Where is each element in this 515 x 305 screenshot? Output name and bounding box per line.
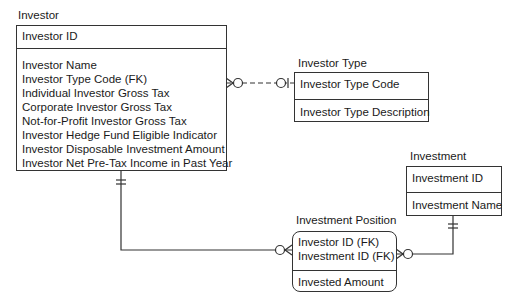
entity-investment-position[interactable]: Investor ID (FK) Investment ID (FK) Inve… <box>292 231 397 292</box>
attribute: Investor Type Description <box>300 105 423 119</box>
attribute: Individual Investor Gross Tax <box>22 86 221 100</box>
attribute: Investor Net Pre-Tax Income in Past Year <box>22 156 221 170</box>
attribute-section: Investment Name <box>407 192 501 215</box>
entity-title-investor-type: Investor Type <box>298 57 367 70</box>
attribute: Investment Name <box>412 198 496 212</box>
attribute: Investor Type Code <box>300 77 423 91</box>
key-section: Investor ID (FK) Investment ID (FK) <box>293 232 396 270</box>
entity-investor[interactable]: Investor ID Investor Name Investor Type … <box>16 25 227 171</box>
entity-investment[interactable]: Investment ID Investment Name <box>406 166 502 216</box>
attribute: Investment ID <box>412 171 496 185</box>
entity-title-investment-position: Investment Position <box>296 214 396 227</box>
attribute: Invested Amount <box>298 275 391 289</box>
entity-investor-type[interactable]: Investor Type Code Investor Type Descrip… <box>294 72 429 122</box>
attribute-section: Invested Amount <box>293 270 396 292</box>
attribute: Investment ID (FK) <box>298 249 391 263</box>
key-section: Investor Type Code <box>295 73 428 99</box>
attribute-section: Investor Type Description <box>295 99 428 122</box>
attribute: Not-for-Profit Investor Gross Tax <box>22 114 221 128</box>
key-section: Investment ID <box>407 167 501 192</box>
relationship-investor-position <box>121 170 292 250</box>
relationship-investment-position <box>396 215 453 254</box>
attribute-section: Investor Name Investor Type Code (FK) In… <box>17 48 226 173</box>
attribute: Corporate Investor Gross Tax <box>22 100 221 114</box>
attribute: Investor ID (FK) <box>298 235 391 249</box>
entity-title-investment: Investment <box>410 150 466 163</box>
attribute: Investor Name <box>22 58 221 72</box>
attribute: Investor Disposable Investment Amount <box>22 142 221 156</box>
attribute: Investor Type Code (FK) <box>22 72 221 86</box>
entity-title-investor: Investor <box>18 9 59 22</box>
attribute: Investor ID <box>22 29 221 43</box>
key-section: Investor ID <box>17 26 226 48</box>
attribute: Investor Hedge Fund Eligible Indicator <box>22 128 221 142</box>
